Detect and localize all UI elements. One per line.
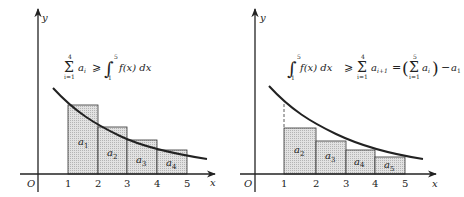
int-lower: 1 xyxy=(291,74,295,81)
right-tick-5: 5 xyxy=(402,178,408,189)
sum2-term: ai xyxy=(422,62,430,74)
left-x-label: x xyxy=(210,177,216,188)
right-formula: ∫ 5 1 f(x) dx ⩾ 4 Σ i=1 ai+1 = ( 5 Σ i=1… xyxy=(287,53,461,81)
left-tick-1: 1 xyxy=(65,178,71,189)
left-tick-4: 4 xyxy=(154,178,160,189)
diagram-canvas: y x O 1 2 3 4 5 a1 a2 a3 a4 4 Σ i=1 ai ⩾… xyxy=(0,0,464,197)
right-origin-label: O xyxy=(244,178,252,189)
lparen: ( xyxy=(402,58,409,78)
sum1-term: ai+1 xyxy=(371,62,388,74)
relation-geq: ⩾ xyxy=(344,61,353,74)
left-formula: 4 Σ i=1 ai ⩾ ∫ 5 1 f(x) dx xyxy=(64,53,152,81)
right-tick-2: 2 xyxy=(313,178,319,189)
rparen: ) xyxy=(432,58,439,78)
last-term: a1 xyxy=(451,62,461,74)
left-tick-2: 2 xyxy=(95,178,101,189)
minus: − xyxy=(441,61,450,74)
left-panel: y x O 1 2 3 4 5 a1 a2 a3 a4 4 Σ i=1 ai ⩾… xyxy=(20,9,216,192)
left-origin-label: O xyxy=(27,178,35,189)
int-lower: 1 xyxy=(108,74,112,81)
relation-geq: ⩾ xyxy=(92,61,101,74)
right-tick-3: 3 xyxy=(343,178,349,189)
right-tick-1: 1 xyxy=(281,178,287,189)
sum-term: ai xyxy=(78,62,86,74)
right-y-label: y xyxy=(259,12,266,23)
left-y-label: y xyxy=(41,12,48,23)
left-tick-3: 3 xyxy=(124,178,130,189)
int-upper: 5 xyxy=(114,53,118,60)
left-tick-5: 5 xyxy=(184,178,190,189)
right-panel: y x O 1 2 3 4 5 a2 a3 a4 a5 ∫ 5 1 f(x) d… xyxy=(240,9,461,192)
sum-lower: i=1 xyxy=(64,73,75,80)
equals: = xyxy=(392,61,401,74)
sum1-lower: i=1 xyxy=(357,73,368,80)
integrand: f(x) dx xyxy=(118,62,152,73)
right-x-label: x xyxy=(432,178,438,189)
sum2-lower: i=1 xyxy=(409,73,420,80)
right-tick-4: 4 xyxy=(372,178,378,189)
int-upper: 5 xyxy=(297,53,301,60)
integrand: f(x) dx xyxy=(299,62,333,73)
